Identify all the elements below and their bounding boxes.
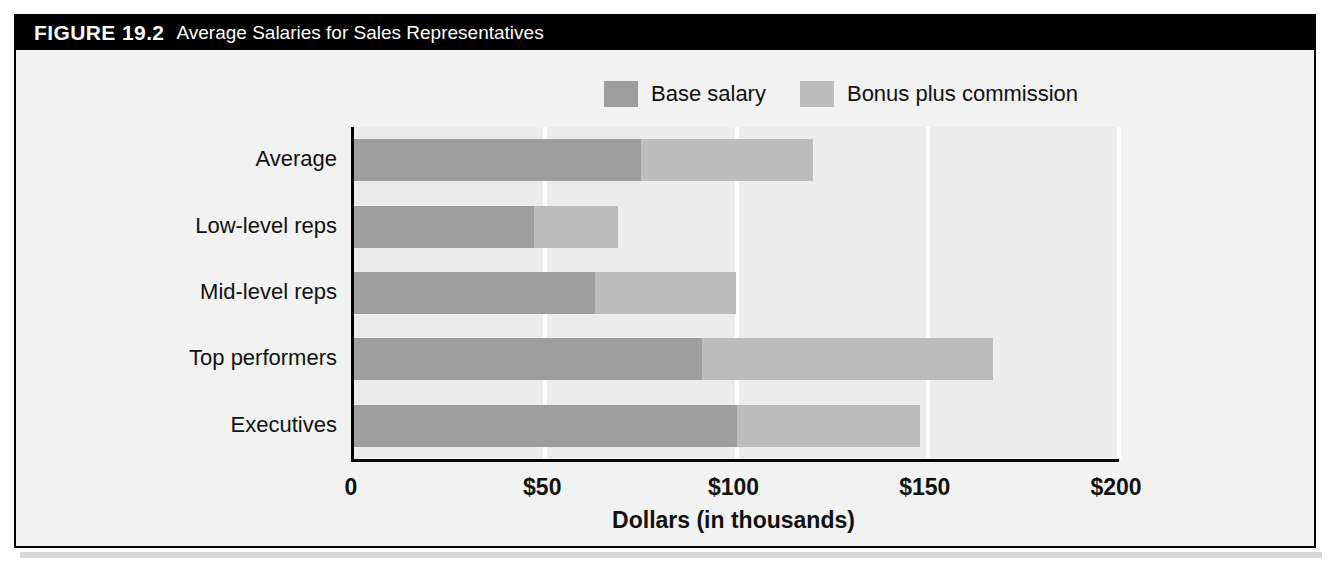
bar-segment[interactable] bbox=[354, 272, 595, 314]
figure-container: FIGURE 19.2 Average Salaries for Sales R… bbox=[0, 0, 1330, 577]
x-axis-title: Dollars (in thousands) bbox=[351, 507, 1116, 534]
bar-segment[interactable] bbox=[354, 338, 702, 380]
bar-row[interactable] bbox=[354, 338, 993, 380]
legend-swatch-base-salary bbox=[604, 81, 638, 107]
bar-segment[interactable] bbox=[737, 405, 921, 447]
figure-shadow bbox=[20, 552, 1322, 558]
figure-title: Average Salaries for Sales Representativ… bbox=[176, 22, 543, 44]
x-tick-label: $50 bbox=[523, 474, 561, 501]
category-label: Executives bbox=[37, 412, 337, 438]
legend-item-base-salary: Base salary bbox=[604, 81, 766, 107]
x-tick-label: $100 bbox=[708, 474, 759, 501]
figure-number: FIGURE 19.2 bbox=[34, 21, 164, 45]
bar-row[interactable] bbox=[354, 139, 813, 181]
bar-row[interactable] bbox=[354, 405, 920, 447]
x-tick-label: $200 bbox=[1090, 474, 1141, 501]
plot-area bbox=[351, 127, 1119, 462]
bar-segment[interactable] bbox=[354, 139, 641, 181]
category-label: Mid-level reps bbox=[37, 279, 337, 305]
bar-row[interactable] bbox=[354, 206, 618, 248]
figure-titlebar: FIGURE 19.2 Average Salaries for Sales R… bbox=[16, 16, 1314, 50]
bar-segment[interactable] bbox=[595, 272, 737, 314]
gridline-200 bbox=[1117, 127, 1121, 459]
chart-legend: Base salary Bonus plus commission bbox=[604, 81, 1078, 107]
x-tick-label: 0 bbox=[345, 474, 358, 501]
bar-row[interactable] bbox=[354, 272, 736, 314]
category-label: Average bbox=[37, 146, 337, 172]
bar-segment[interactable] bbox=[354, 206, 534, 248]
bar-segment[interactable] bbox=[641, 139, 813, 181]
gridline-150 bbox=[926, 127, 930, 459]
bar-segment[interactable] bbox=[534, 206, 618, 248]
legend-swatch-bonus-commission bbox=[800, 81, 834, 107]
legend-label-bonus-commission: Bonus plus commission bbox=[847, 81, 1078, 107]
bar-segment[interactable] bbox=[354, 405, 737, 447]
legend-label-base-salary: Base salary bbox=[651, 81, 766, 107]
category-axis-labels: AverageLow-level repsMid-level repsTop p… bbox=[32, 127, 337, 459]
bar-segment[interactable] bbox=[702, 338, 993, 380]
category-label: Low-level reps bbox=[37, 213, 337, 239]
legend-item-bonus-commission: Bonus plus commission bbox=[800, 81, 1078, 107]
x-tick-label: $150 bbox=[899, 474, 950, 501]
category-label: Top performers bbox=[37, 345, 337, 371]
